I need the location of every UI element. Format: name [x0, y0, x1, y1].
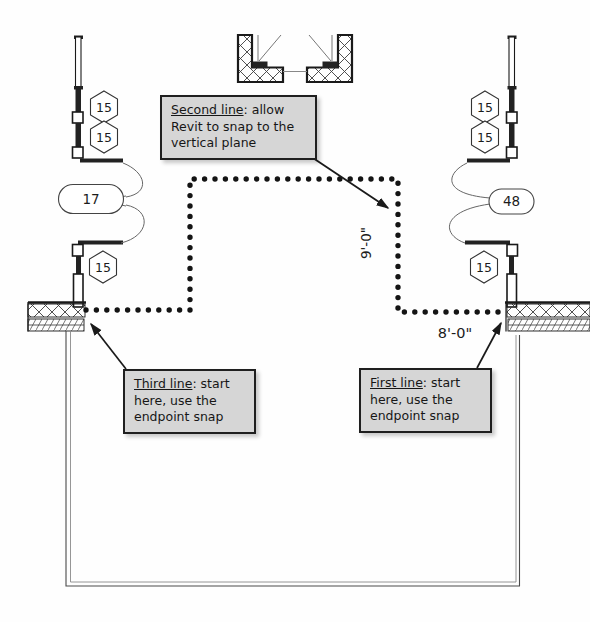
callout-lead: First line	[370, 375, 423, 390]
window-tag-label: 15	[96, 130, 112, 145]
door-header	[80, 159, 123, 163]
sketch-line-dotted-path	[86, 179, 504, 312]
dimension-horizontal: 8'-0"	[438, 325, 472, 341]
bottom-right-wall	[505, 302, 590, 332]
window-tag-label: 15	[477, 100, 493, 115]
wall-segment	[509, 123, 515, 147]
callout-text: : start	[423, 375, 460, 390]
callout-first-line: First line: start here, use the endpoint…	[359, 368, 492, 433]
callout-line: First line: start	[370, 375, 482, 392]
door-tag-label: 48	[503, 193, 520, 209]
arrow-second-line	[313, 158, 388, 208]
callout-line: endpoint snap	[134, 409, 246, 426]
arrow-third-line	[91, 324, 126, 369]
wall-segment	[509, 89, 515, 112]
callout-second-line: Second line: allow Revit to snap to the …	[160, 95, 317, 160]
door-swing-lines-left	[258, 35, 281, 61]
wall-segment	[76, 123, 82, 147]
callout-line: here, use the	[134, 393, 246, 410]
wall-hatch-band	[28, 304, 85, 317]
wall-segment	[76, 256, 81, 274]
callout-line: endpoint snap	[370, 408, 482, 425]
mullion	[507, 245, 518, 257]
window-tag-label: 15	[476, 260, 492, 275]
window-glazing	[76, 37, 82, 88]
callout-lead: Second line	[171, 102, 244, 117]
callout-third-line: Third line: start here, use the endpoint…	[123, 369, 256, 434]
window-cap	[508, 86, 517, 90]
door-swing-lines-right	[309, 35, 332, 61]
door-stop-right	[323, 62, 338, 69]
mullion	[73, 147, 84, 158]
callout-lead: Third line	[134, 376, 192, 391]
door-swings	[102, 163, 509, 243]
door-tags: 17 48	[59, 185, 535, 215]
mullion	[507, 112, 518, 123]
window-tag-label: 15	[95, 260, 111, 275]
callout-line: Third line: start	[134, 376, 246, 393]
wall-segment	[509, 256, 514, 274]
callout-line: Revit to snap to the	[171, 119, 307, 136]
mullion	[73, 112, 84, 123]
window-tag-label: 15	[96, 100, 112, 115]
window-glazing	[509, 37, 515, 88]
callout-line: vertical plane	[171, 135, 307, 152]
door-header	[467, 159, 510, 163]
revit-sketch-tutorial-diagram: 15 15 15 15 15 15 17 48 9'-0" 8'-0" Seco…	[0, 0, 590, 622]
dimension-vertical: 9'-0"	[358, 227, 374, 259]
door-header	[78, 241, 123, 245]
door-tag-label: 17	[82, 191, 99, 207]
bottom-left-wall	[28, 302, 86, 332]
top-door-opening	[238, 35, 352, 82]
callout-text: : start	[192, 376, 229, 391]
door-header	[465, 241, 510, 245]
door-swing-arc	[452, 163, 490, 198]
wall-segment	[76, 89, 82, 112]
window-cap	[74, 86, 83, 90]
wall-hatch-band	[507, 304, 590, 317]
floor-plan-drawing: 15 15 15 15 15 15 17 48 9'-0" 8'-0"	[0, 0, 590, 622]
mullion	[73, 245, 84, 257]
door-swing-arc	[123, 163, 143, 197]
mullion	[507, 147, 518, 158]
callout-line: Second line: allow	[171, 102, 307, 119]
callout-line: here, use the	[370, 392, 482, 409]
door-stop-left	[253, 62, 268, 69]
door-swing-arc	[449, 204, 490, 243]
callout-text: : allow	[244, 102, 285, 117]
arrow-first-line	[477, 323, 501, 368]
door-swing-arc	[121, 205, 144, 243]
window-tag-label: 15	[477, 130, 493, 145]
